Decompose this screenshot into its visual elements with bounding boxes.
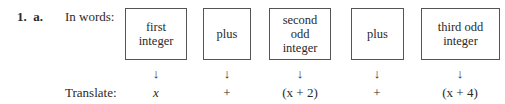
box-line: plus	[367, 27, 388, 41]
in-words-label: In words:	[65, 9, 114, 25]
word-box-first-integer: first integer	[125, 8, 187, 60]
down-arrow-icon: ↓	[146, 66, 166, 82]
box-line: second	[283, 13, 318, 27]
translation-plus-2: +	[347, 85, 407, 101]
box-line: odd	[283, 27, 318, 41]
translation-x-plus-4: (x + 4)	[430, 85, 490, 101]
problem-part-text: a.	[33, 9, 43, 24]
down-arrow-icon: ↓	[290, 66, 310, 82]
box-line: integer	[283, 41, 318, 55]
word-box-plus-1: plus	[203, 8, 251, 60]
translate-label: Translate:	[65, 85, 117, 101]
translation-plus-1: +	[197, 85, 257, 101]
word-box-second-odd-integer: second odd integer	[269, 8, 331, 60]
box-line: plus	[217, 27, 238, 41]
box-line: third odd	[438, 20, 483, 34]
down-arrow-icon: ↓	[217, 66, 237, 82]
box-line: first	[139, 20, 174, 34]
box-line: integer	[139, 34, 174, 48]
word-box-plus-2: plus	[351, 8, 404, 60]
problem-number: 1. a.	[17, 9, 43, 25]
word-box-third-odd-integer: third odd integer	[421, 8, 500, 60]
translation-x-plus-2: (x + 2)	[270, 85, 330, 101]
problem-number-text: 1.	[17, 9, 27, 24]
down-arrow-icon: ↓	[367, 66, 387, 82]
down-arrow-icon: ↓	[450, 66, 470, 82]
translation-x: x	[126, 85, 186, 101]
box-line: integer	[438, 34, 483, 48]
